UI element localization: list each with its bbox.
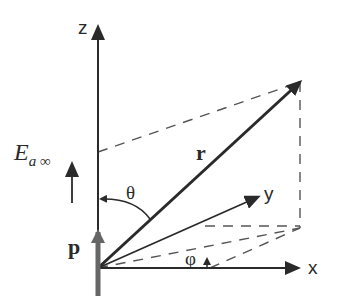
dashed-diagonal-line bbox=[98, 228, 300, 268]
x-axis-label: x bbox=[308, 258, 318, 277]
field-symbol: E bbox=[14, 139, 29, 165]
z-axis-label: z bbox=[78, 18, 88, 37]
r-vector bbox=[98, 82, 300, 268]
r-vector-label: r bbox=[196, 142, 206, 164]
field-subscript: a ∞ bbox=[29, 153, 51, 169]
p-vector-label: p bbox=[68, 236, 80, 258]
y-axis-label: y bbox=[264, 184, 274, 203]
dashed-x-plane-line bbox=[210, 228, 300, 268]
theta-label: θ bbox=[126, 183, 135, 202]
diagram-canvas bbox=[0, 0, 340, 307]
phi-label: φ bbox=[185, 249, 196, 268]
field-label: Ea ∞ bbox=[14, 140, 51, 164]
